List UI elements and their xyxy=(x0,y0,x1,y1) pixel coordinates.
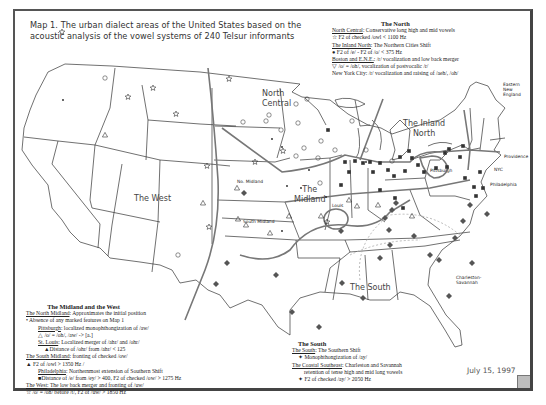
square-marker xyxy=(361,161,365,165)
legend-midland-west-heading: The Midland and the West xyxy=(26,303,181,310)
square-marker xyxy=(474,194,478,198)
diamond-marker xyxy=(446,293,452,299)
triangle-marker xyxy=(409,213,414,218)
circle-marker xyxy=(294,154,298,158)
map-date: July 15, 1997 xyxy=(467,366,516,375)
legend-south-heading: The South xyxy=(292,340,402,347)
square-marker xyxy=(401,206,405,210)
triangle-marker xyxy=(318,213,323,218)
triangle-marker xyxy=(234,185,239,190)
legend-line: Philadelphia: Northernmost extension of … xyxy=(26,368,181,375)
legend-line: The South: The Southern Shift xyxy=(292,347,402,354)
diamond-marker xyxy=(339,280,345,286)
title-line-1: Map 1. The urban dialect areas of the Un… xyxy=(30,20,301,31)
dot-marker xyxy=(286,185,288,187)
triangle-marker xyxy=(200,200,205,205)
legend-line: ▲Distance of /ohr/ from /ahr/ < 125 xyxy=(26,346,181,353)
legend-area-name: The West xyxy=(26,382,47,388)
legend-line: ● F2 of /e/ - F2 of /o/ < 375 Hz xyxy=(332,49,459,56)
circle-marker xyxy=(333,148,337,152)
square-marker xyxy=(443,151,447,155)
square-marker xyxy=(478,170,482,174)
star-marker xyxy=(150,85,156,90)
legend-text: New York City: /r/ vocalization and rais… xyxy=(332,70,458,76)
square-marker xyxy=(392,174,396,178)
legend-text: Distance of /e/ from /ey/ > 400, F2 of c… xyxy=(41,375,181,381)
diamond-marker xyxy=(377,255,383,261)
diamond-marker xyxy=(316,324,322,330)
legend-text: : localized monophthongization of /aw/ xyxy=(61,325,149,331)
legend-text: : The Northern Cities Shift xyxy=(371,42,431,48)
legend-text: : The low back merger and fronting of /u… xyxy=(47,382,144,388)
square-marker xyxy=(422,170,426,174)
square-marker xyxy=(353,159,357,163)
square-marker xyxy=(458,155,462,159)
legend-line: ☆ F2 of checked /owl < 1100 Hz xyxy=(332,34,459,41)
legend-text: : Charleston and Savannah xyxy=(342,362,402,368)
label-south: The South xyxy=(350,283,391,293)
square-marker xyxy=(461,144,465,148)
square-marker xyxy=(416,163,420,167)
diamond-marker xyxy=(393,200,399,206)
circle-marker xyxy=(176,253,180,257)
square-marker xyxy=(481,186,485,190)
triangle-marker xyxy=(102,132,107,137)
circle-marker xyxy=(241,120,245,124)
square-marker xyxy=(371,170,375,174)
legend-north: The North North Central: Conservative lo… xyxy=(332,20,459,78)
label-inland-north: The Inland North xyxy=(403,119,445,139)
diamond-marker xyxy=(241,190,247,196)
diamond-marker xyxy=(386,227,392,233)
label-st-louis: Louis xyxy=(332,203,343,208)
star-marker xyxy=(206,224,212,229)
legend-area-name: North Central xyxy=(332,27,363,33)
label-nyc: NYC xyxy=(494,167,503,172)
circle-marker xyxy=(296,121,300,125)
legend-line: The Coastal Southeast: Charleston and Sa… xyxy=(292,362,402,369)
square-marker xyxy=(398,155,402,159)
legend-line: ▽ /o/ = /oh/, vocalization of postvocali… xyxy=(332,63,459,70)
triangle-marker xyxy=(346,197,351,202)
legend-area-name: The Coastal Southeast xyxy=(292,362,342,368)
label-south-midland: South Midland xyxy=(243,219,274,224)
diamond-marker xyxy=(427,252,433,258)
legend-south-lines: The South: The Southern Shift✦ Monophtho… xyxy=(292,347,402,383)
dot-marker xyxy=(365,161,367,163)
dot-marker xyxy=(281,230,283,232)
square-marker xyxy=(368,160,372,164)
label-eastern-new-england: Eastern New England xyxy=(503,82,521,97)
diamond-marker xyxy=(484,211,490,217)
legend-north-heading: The North xyxy=(332,20,459,27)
legend-line: The South Midland: fronting of checked /… xyxy=(26,353,181,360)
map-title: Map 1. The urban dialect areas of the Un… xyxy=(30,20,301,42)
west-star-symbols xyxy=(59,29,330,229)
legend-text: F2 of /e/ - F2 of /o/ < 375 Hz xyxy=(335,49,402,55)
label-providence: Providence xyxy=(504,154,528,159)
legend-text: F2 of checked /owl < 1100 Hz xyxy=(337,34,406,40)
label-pittsburgh: Pittsburgh xyxy=(430,168,452,173)
legend-line: The Inland North: The Northern Cities Sh… xyxy=(332,42,459,49)
star-marker xyxy=(173,111,179,116)
legend-area-name: The Inland North xyxy=(332,42,371,48)
legend-text: : /r/ vocalization and low back merger xyxy=(374,56,459,62)
diamond-marker xyxy=(360,295,366,301)
legend-text: Monophthongization of /ay/ xyxy=(303,354,367,360)
legend-line: ▲ F2 of /owl > 1350 Hz / xyxy=(26,361,181,368)
circle-marker xyxy=(319,139,323,143)
legend-line: The West: The low back merger and fronti… xyxy=(26,382,181,389)
circle-marker xyxy=(103,76,107,80)
circle-marker xyxy=(302,146,306,150)
legend-text: : Northernmost extension of Southern Shi… xyxy=(66,368,163,374)
square-marker xyxy=(407,149,411,153)
diamond-marker xyxy=(452,235,458,241)
square-marker xyxy=(447,147,451,151)
diamond-marker xyxy=(469,260,475,266)
star-marker xyxy=(252,159,258,164)
star-marker xyxy=(125,94,131,99)
legend-line: △ /o/ = /oh/, /aw/ -> [a.] xyxy=(26,332,181,339)
legend-text: /o/ = /oh/, /aw/ -> [a.] xyxy=(43,332,93,338)
label-charleston-savannah: Charleston- Savannah xyxy=(456,275,481,285)
north-midland-dot-symbols xyxy=(62,99,367,232)
legend-text: : Approximates the initial position xyxy=(70,310,146,316)
legend-line: ■Distance of /e/ from /ey/ > 400, F2 of … xyxy=(26,375,181,382)
